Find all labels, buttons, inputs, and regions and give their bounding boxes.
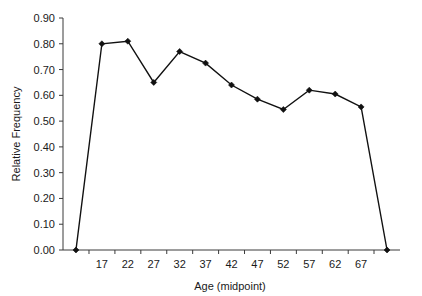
series-line (76, 41, 387, 250)
y-tick-label: 0.40 (34, 141, 55, 153)
x-tick-label: 52 (277, 258, 289, 270)
x-tick-label: 22 (122, 258, 134, 270)
y-tick-label: 0.60 (34, 89, 55, 101)
x-tick-label: 37 (199, 258, 211, 270)
y-tick-label: 0.70 (34, 64, 55, 76)
data-series-group (73, 38, 390, 253)
x-tick-label: 42 (225, 258, 237, 270)
x-axis-ticks: 1722273237424752576267 (89, 250, 374, 270)
x-axis-title: Age (midpoint) (194, 280, 266, 292)
data-point-marker (384, 247, 390, 253)
y-tick-label: 0.30 (34, 167, 55, 179)
data-point-marker (358, 104, 364, 110)
x-tick-label: 62 (329, 258, 341, 270)
data-point-marker (254, 96, 260, 102)
data-point-marker (99, 41, 105, 47)
data-point-marker (332, 91, 338, 97)
x-tick-label: 17 (96, 258, 108, 270)
x-axis-group: 1722273237424752576267 (63, 250, 400, 270)
y-axis-group: 0.000.100.200.300.400.500.600.700.800.90 (34, 12, 63, 256)
series-markers (73, 38, 390, 253)
x-tick-label: 57 (303, 258, 315, 270)
x-tick-label: 67 (355, 258, 367, 270)
chart-container: 0.000.100.200.300.400.500.600.700.800.90… (0, 0, 422, 296)
y-tick-label: 0.90 (34, 12, 55, 24)
x-tick-label: 32 (174, 258, 186, 270)
y-tick-label: 0.50 (34, 115, 55, 127)
y-axis-ticks: 0.000.100.200.300.400.500.600.700.800.90 (34, 12, 63, 256)
x-tick-label: 47 (251, 258, 263, 270)
line-chart: 0.000.100.200.300.400.500.600.700.800.90… (0, 0, 422, 296)
y-tick-label: 0.20 (34, 192, 55, 204)
y-axis-title: Relative Frequency (10, 86, 22, 181)
data-point-marker (73, 247, 79, 253)
y-tick-label: 0.00 (34, 244, 55, 256)
y-tick-label: 0.10 (34, 218, 55, 230)
x-tick-label: 27 (148, 258, 160, 270)
y-tick-label: 0.80 (34, 38, 55, 50)
